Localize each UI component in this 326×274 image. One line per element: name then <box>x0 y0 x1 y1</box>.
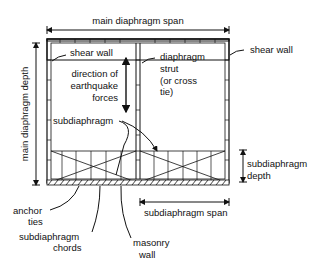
svg-text:(or cross: (or cross <box>160 75 197 86</box>
main-depth-label: main diaphragm depth <box>19 67 30 162</box>
diaphragm-strut: diaphragm strut (or cross tie) <box>142 51 205 97</box>
subdiaphragm-depth-dimension: subdiaphragm depth <box>239 150 307 182</box>
svg-text:chords: chords <box>53 242 82 253</box>
earthquake-direction-arrow: direction of earthquake forces <box>70 58 126 112</box>
subdiaphragm-span-dimension: subdiaphragm span <box>140 198 229 218</box>
svg-text:anchor: anchor <box>13 205 42 216</box>
anchor-ties: anchor ties <box>13 186 79 227</box>
svg-text:shear wall: shear wall <box>70 47 113 58</box>
svg-text:ties: ties <box>28 216 43 227</box>
svg-text:wall: wall <box>138 249 155 260</box>
svg-text:direction of: direction of <box>72 68 119 79</box>
svg-text:subdiaphragm span: subdiaphragm span <box>144 207 227 218</box>
svg-text:diaphragm: diaphragm <box>160 51 205 62</box>
subdiaphragm-framing <box>51 151 225 182</box>
svg-text:strut: strut <box>160 63 179 74</box>
svg-text:forces: forces <box>92 92 118 103</box>
masonry-wall: masonry wall <box>121 186 170 260</box>
svg-text:shear wall: shear wall <box>250 44 293 55</box>
main-depth-dimension: main diaphragm depth <box>19 43 40 185</box>
diaphragm-diagram: main diaphragm span <box>0 0 326 274</box>
main-span-dimension: main diaphragm span <box>47 15 229 34</box>
shear-wall-left: shear wall <box>52 47 113 61</box>
main-span-label: main diaphragm span <box>92 15 183 26</box>
subdiaphragm-label: subdiaphragm <box>53 115 157 175</box>
svg-text:subdiaphragm: subdiaphragm <box>19 231 79 242</box>
diagram-canvas: main diaphragm span <box>0 0 326 274</box>
svg-text:masonry: masonry <box>133 237 170 248</box>
masonry-wall-hatch <box>47 180 229 185</box>
svg-text:tie): tie) <box>160 86 173 97</box>
svg-text:subdiaphragm: subdiaphragm <box>53 115 113 126</box>
shear-wall-right: shear wall <box>230 44 293 55</box>
svg-text:depth: depth <box>247 170 271 181</box>
svg-text:subdiaphragm: subdiaphragm <box>247 158 307 169</box>
svg-text:earthquake: earthquake <box>70 80 118 91</box>
